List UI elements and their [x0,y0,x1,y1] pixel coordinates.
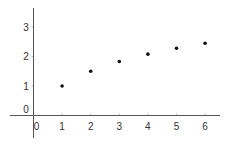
data-point [89,69,93,73]
y-tick-label: 2 [23,51,29,62]
x-tick-labels: 0123456 [34,114,209,133]
data-point [203,41,207,45]
x-tick-label: 5 [174,121,180,132]
data-point [118,60,122,64]
y-tick-labels: 0123 [23,22,33,115]
x-tick-label: 0 [34,121,40,132]
y-tick-label: 3 [23,22,29,33]
data-points [60,41,207,87]
data-point [60,84,64,88]
x-tick-label: 1 [59,121,65,132]
x-tick-label: 2 [88,121,94,132]
x-tick-label: 3 [117,121,123,132]
scatter-chart: 0123456 0123 [0,0,229,144]
x-tick-label: 6 [202,121,208,132]
y-tick-label: 0 [23,104,29,115]
data-point [175,46,179,50]
data-point [146,52,150,56]
x-tick-label: 4 [145,121,151,132]
y-tick-label: 1 [23,81,29,92]
